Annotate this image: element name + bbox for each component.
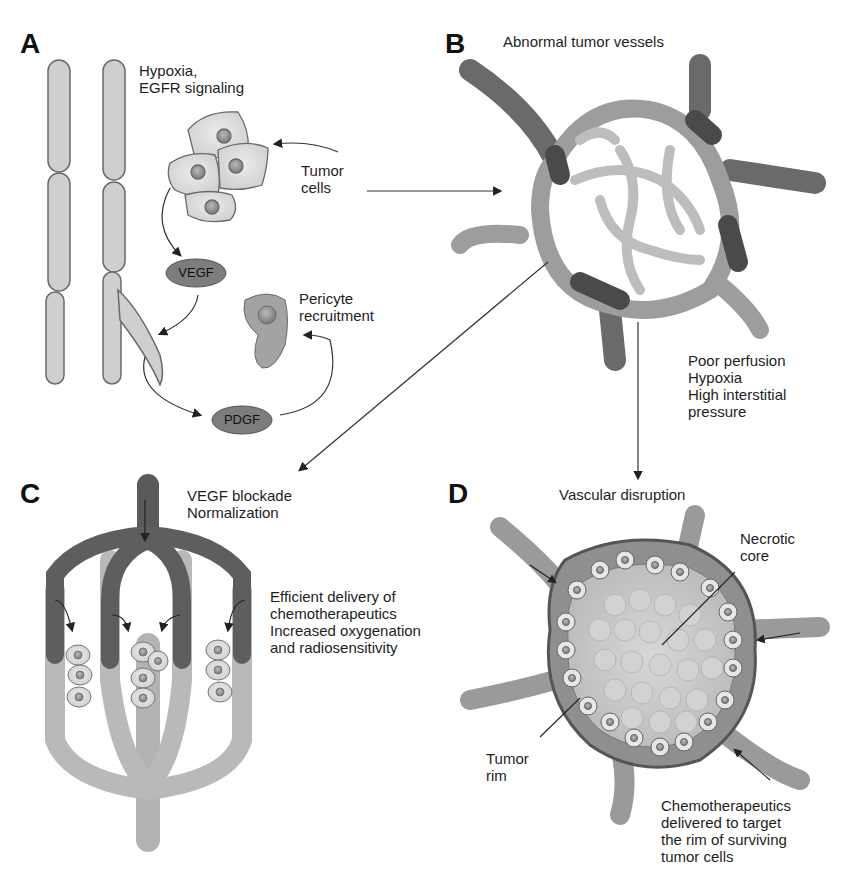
hypoxia-egfr-label: Hypoxia, EGFR signaling xyxy=(139,62,244,96)
panel-d-outcome: Chemotherapeutics delivered to target th… xyxy=(661,797,791,865)
panel-c-outcome: Efficient delivery of chemotherapeutics … xyxy=(270,588,421,656)
panel-b-vessel-network xyxy=(460,65,815,360)
panel-d-letter: D xyxy=(448,478,468,510)
panel-c-letter: C xyxy=(20,478,40,510)
panel-b-title: Abnormal tumor vessels xyxy=(503,33,664,50)
pdgf-pill-label: PDGF xyxy=(212,412,272,427)
vegf-pill-label: VEGF xyxy=(166,265,226,280)
tumor-cells-label: Tumor cells xyxy=(301,162,344,196)
necrotic-core-label: Necrotic core xyxy=(740,530,795,564)
panel-a-vessels xyxy=(46,60,163,385)
panel-c-tumor-cells xyxy=(66,640,232,708)
pericyte-recruitment-label: Pericyte recruitment xyxy=(299,290,374,324)
panel-d-title: Vascular disruption xyxy=(559,486,685,503)
panel-a-letter: A xyxy=(20,28,40,60)
tumor-rim-label: Tumor rim xyxy=(486,750,529,784)
diagram-artwork xyxy=(0,0,843,883)
panel-b-consequences: Poor perfusion Hypoxia High interstitial… xyxy=(688,352,786,420)
pericyte-cell xyxy=(244,294,288,368)
panel-b-letter: B xyxy=(445,28,465,60)
panel-c-title: VEGF blockade Normalization xyxy=(187,487,292,521)
panel-a-tumor-cells xyxy=(168,112,268,222)
